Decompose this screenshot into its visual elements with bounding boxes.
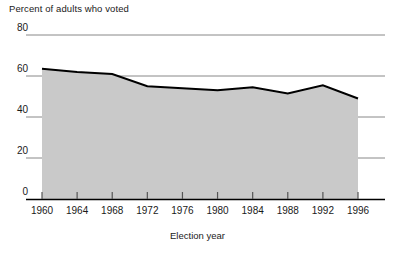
y-tick-label: 60 [2, 63, 28, 74]
chart-container: Percent of adults who voted 020406080 19… [0, 0, 395, 255]
x-axis-title: Election year [0, 230, 395, 241]
y-tick-label: 80 [2, 22, 28, 33]
x-tick-label: 1964 [57, 205, 97, 216]
x-tick-label: 1976 [162, 205, 202, 216]
x-tick-label: 1996 [338, 205, 378, 216]
x-tick-label: 1972 [127, 205, 167, 216]
x-tick-label: 1960 [22, 205, 62, 216]
x-tick-label: 1988 [268, 205, 308, 216]
y-tick-label: 0 [2, 186, 28, 197]
x-tick-label: 1968 [92, 205, 132, 216]
x-tick-label: 1980 [198, 205, 238, 216]
chart-plot-area [0, 0, 395, 255]
x-tick-label: 1992 [303, 205, 343, 216]
y-tick-label: 40 [2, 104, 28, 115]
x-tick-label: 1984 [233, 205, 273, 216]
y-tick-label: 20 [2, 145, 28, 156]
